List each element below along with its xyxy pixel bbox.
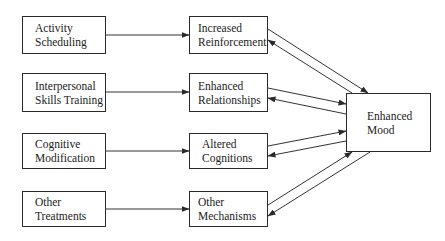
node-label: Altered xyxy=(202,137,267,151)
node-label: Cognitive xyxy=(35,137,105,151)
node-enhanced-relationships: Enhanced Relationships xyxy=(189,73,268,112)
node-activity-scheduling: Activity Scheduling xyxy=(22,16,106,54)
node-label: Modification xyxy=(35,151,105,165)
node-label: Enhanced xyxy=(367,109,430,123)
node-altered-cognitions: Altered Cognitions xyxy=(189,133,268,169)
node-label: Other xyxy=(198,195,267,209)
node-enhanced-mood: Enhanced Mood xyxy=(346,93,431,152)
node-label: Interpersonal xyxy=(35,79,105,93)
node-interpersonal-skills-training: Interpersonal Skills Training xyxy=(22,73,106,112)
node-increased-reinforcement: Increased Reinforcement xyxy=(189,16,268,54)
node-cognitive-modification: Cognitive Modification xyxy=(22,133,106,169)
node-label: Enhanced xyxy=(198,79,267,93)
node-label: Skills Training xyxy=(35,93,105,107)
node-other-mechanisms: Other Mechanisms xyxy=(189,191,268,227)
node-label: Increased xyxy=(198,21,267,35)
node-label: Mood xyxy=(367,123,430,137)
node-label: Cognitions xyxy=(202,151,267,165)
node-other-treatments: Other Treatments xyxy=(22,191,106,227)
node-label: Other xyxy=(35,195,105,209)
node-label: Treatments xyxy=(35,209,105,223)
node-label: Mechanisms xyxy=(198,209,267,223)
node-label: Reinforcement xyxy=(198,35,267,49)
node-label: Scheduling xyxy=(35,35,105,49)
node-label: Activity xyxy=(35,21,105,35)
node-label: Relationships xyxy=(198,93,267,107)
